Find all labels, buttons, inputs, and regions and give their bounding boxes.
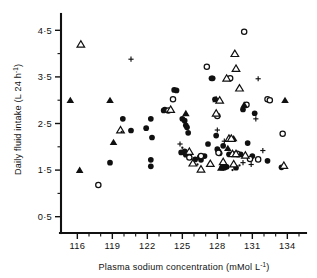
marker-filled-circle bbox=[205, 141, 211, 147]
marker-open-circle bbox=[187, 155, 192, 160]
y-axis-title-tail: ) bbox=[13, 64, 23, 67]
marker-cross bbox=[253, 116, 258, 121]
marker-filled-triangle bbox=[106, 97, 114, 103]
x-tick-label: 128 bbox=[209, 241, 225, 251]
marker-filled-circle bbox=[149, 135, 155, 141]
marker-open-circle bbox=[198, 153, 203, 158]
marker-dot bbox=[238, 164, 240, 166]
marker-open-circle bbox=[204, 64, 209, 69]
marker-filled-circle bbox=[265, 158, 271, 164]
marker-open-circle bbox=[267, 98, 272, 103]
marker-open-circle bbox=[96, 182, 101, 187]
marker-filled-circle bbox=[148, 164, 154, 170]
marker-open-triangle bbox=[117, 127, 125, 133]
marker-open-triangle bbox=[230, 161, 238, 167]
marker-open-triangle bbox=[207, 160, 215, 166]
scatter-plot-figure: Daily fluid intake (L 24 h-1) Plasma sod… bbox=[0, 0, 317, 278]
marker-open-circle bbox=[216, 150, 221, 155]
marker-filled-circle bbox=[210, 75, 216, 81]
marker-cross bbox=[128, 57, 133, 62]
marker-filled-circle bbox=[184, 124, 190, 130]
marker-open-triangle bbox=[212, 110, 220, 116]
x-axis-title-main: Plasma sodium concentration (mMol L bbox=[99, 262, 261, 272]
marker-open-triangle bbox=[197, 166, 205, 172]
y-tick-label: 4·5 bbox=[38, 26, 52, 36]
marker-dot bbox=[196, 163, 198, 165]
x-tick-label: 122 bbox=[139, 241, 155, 251]
marker-filled-circle bbox=[252, 110, 258, 116]
x-tick-label: 134 bbox=[279, 241, 295, 251]
marker-cross bbox=[260, 148, 265, 153]
marker-filled-triangle bbox=[67, 97, 75, 103]
svg-text:Plasma sodium concentration (m: Plasma sodium concentration (mMol L-1) bbox=[99, 261, 270, 272]
marker-filled-circle bbox=[174, 88, 180, 94]
marker-filled-triangle bbox=[281, 97, 289, 103]
x-tick-label: 119 bbox=[104, 241, 120, 251]
marker-filled-triangle bbox=[76, 167, 84, 173]
marker-open-circle bbox=[170, 97, 175, 102]
y-tick-label: 0·5 bbox=[38, 212, 52, 222]
y-axis-title-main: Daily fluid intake (L 24 h bbox=[13, 73, 23, 175]
x-tick-label: 131 bbox=[244, 241, 260, 251]
marker-filled-circle bbox=[143, 125, 149, 131]
marker-filled-triangle bbox=[110, 139, 118, 145]
plot-canvas: Daily fluid intake (L 24 h-1) Plasma sod… bbox=[0, 0, 317, 278]
marker-dot bbox=[121, 131, 123, 133]
marker-filled-circle bbox=[128, 128, 134, 134]
marker-open-triangle bbox=[219, 158, 227, 164]
marker-filled-triangle bbox=[182, 110, 190, 116]
x-axis-title-tail: ) bbox=[266, 262, 269, 272]
marker-filled-circle bbox=[120, 116, 126, 122]
marker-filled-circle bbox=[220, 143, 226, 149]
y-tick-label: 2·5 bbox=[38, 119, 52, 129]
marker-dot bbox=[231, 169, 233, 171]
marker-open-triangle bbox=[232, 65, 240, 71]
marker-cross bbox=[177, 141, 182, 146]
series-filled-triangle bbox=[67, 96, 289, 173]
marker-cross bbox=[240, 160, 245, 165]
marker-cross bbox=[256, 76, 261, 81]
marker-open-triangle bbox=[231, 50, 239, 56]
marker-open-circle bbox=[256, 157, 261, 162]
marker-filled-circle bbox=[148, 116, 154, 122]
marker-filled-circle bbox=[148, 157, 154, 163]
svg-text:Daily fluid intake (L 24 h-1): Daily fluid intake (L 24 h-1) bbox=[12, 64, 23, 175]
x-tick-label: 125 bbox=[174, 241, 190, 251]
data-markers-group bbox=[67, 29, 289, 188]
marker-filled-circle bbox=[178, 150, 184, 156]
x-axis-tick-labels: 116119122125128131134 bbox=[69, 241, 295, 251]
marker-filled-circle bbox=[213, 133, 219, 139]
marker-cross bbox=[249, 162, 254, 167]
marker-filled-circle bbox=[245, 140, 251, 146]
marker-dot bbox=[181, 147, 183, 149]
x-axis-title: Plasma sodium concentration (mMol L-1) bbox=[99, 261, 270, 272]
y-tick-label: 3·5 bbox=[38, 72, 52, 82]
marker-open-circle bbox=[242, 29, 247, 34]
marker-cross bbox=[215, 127, 220, 132]
marker-filled-circle bbox=[185, 130, 191, 136]
y-axis-title: Daily fluid intake (L 24 h-1) bbox=[12, 64, 23, 175]
series-cross bbox=[128, 57, 265, 168]
y-tick-label: 1·5 bbox=[38, 165, 52, 175]
marker-open-triangle bbox=[77, 41, 85, 47]
x-tick-label: 116 bbox=[69, 241, 85, 251]
marker-filled-circle bbox=[107, 160, 113, 166]
marker-open-triangle bbox=[236, 85, 244, 91]
marker-open-circle bbox=[280, 131, 285, 136]
y-axis-tick-labels: 0·51·52·53·54·5 bbox=[38, 26, 52, 222]
